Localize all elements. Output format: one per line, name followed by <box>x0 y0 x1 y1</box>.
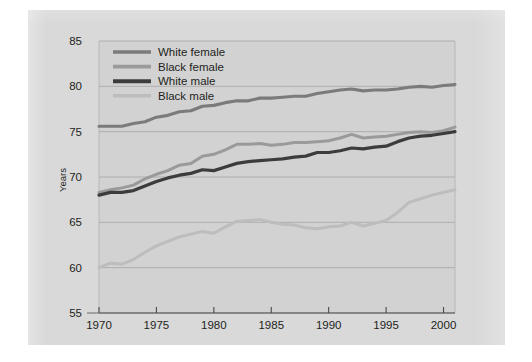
x-tick-label-1970: 1970 <box>86 319 112 331</box>
legend-label-black-female: Black female <box>158 61 224 73</box>
line-chart: 85807570656055 1970197519801985199019952… <box>0 0 532 362</box>
y-axis-title: Years <box>57 168 68 192</box>
x-tick-label-1975: 1975 <box>144 319 170 331</box>
legend-label-white-male: White male <box>158 75 216 87</box>
x-tick-label-1990: 1990 <box>316 319 342 331</box>
y-tick-label-65: 65 <box>69 216 82 228</box>
y-axis-tick-labels: 85807570656055 <box>69 35 82 319</box>
y-tick-label-85: 85 <box>69 35 82 47</box>
x-tick-label-1995: 1995 <box>373 319 399 331</box>
legend-label-black-male: Black male <box>158 90 214 102</box>
x-tick-label-1985: 1985 <box>258 319 284 331</box>
y-tick-label-55: 55 <box>69 307 82 319</box>
chart-screenshot: 85807570656055 1970197519801985199019952… <box>0 0 532 362</box>
y-tick-label-70: 70 <box>69 171 82 183</box>
y-tick-label-75: 75 <box>69 126 82 138</box>
y-tick-label-60: 60 <box>69 262 82 274</box>
x-tick-label-2000: 2000 <box>431 319 457 331</box>
legend-label-white-female: White female <box>158 46 225 58</box>
x-axis-tick-labels: 1970197519801985199019952000 <box>86 319 456 331</box>
plot-wrapper: 85807570656055 1970197519801985199019952… <box>0 0 532 362</box>
x-tick-label-1980: 1980 <box>201 319 227 331</box>
y-tick-label-80: 80 <box>69 80 82 92</box>
